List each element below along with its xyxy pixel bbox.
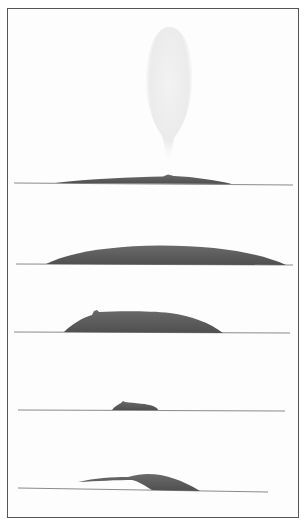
whale-body: [55, 175, 232, 185]
whale-body: [78, 474, 200, 491]
panel-low-fin: [18, 401, 285, 411]
panel-blow: [14, 27, 293, 185]
whale-body: [46, 246, 286, 266]
whale-surfacing-illustration: [0, 0, 305, 524]
panel-back-arch: [16, 246, 293, 266]
spout-icon: [146, 27, 192, 166]
whale-body: [112, 401, 158, 410]
waterline: [18, 410, 285, 411]
whale-body: [64, 310, 223, 333]
panel-tail-arch: [18, 474, 268, 492]
panel-dorsal-fin: [14, 310, 290, 333]
waterline: [18, 488, 268, 492]
